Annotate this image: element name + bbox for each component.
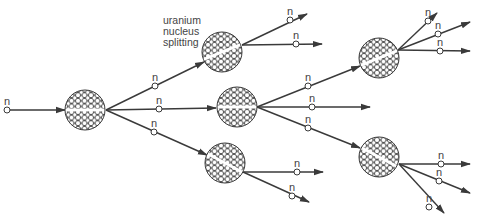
neutron-path: n	[243, 172, 309, 202]
uranium-nucleus-icon	[215, 87, 259, 127]
uranium-nucleus-icon	[201, 32, 243, 72]
neutron-arrow	[243, 172, 309, 202]
neutron-dot-icon	[294, 169, 300, 175]
neutron-label: n	[287, 5, 293, 17]
neutron-path: n	[106, 62, 204, 110]
caption-line-3: splitting	[163, 36, 199, 48]
neutron-dot-icon	[152, 83, 158, 89]
neutron-label: n	[305, 71, 311, 83]
neutron-path: n	[398, 36, 470, 54]
neutron-label: n	[425, 6, 431, 18]
neutron-dot-icon	[305, 125, 311, 131]
neutron-label: n	[293, 29, 299, 41]
neutron-dot-icon	[293, 41, 299, 47]
chain-reaction-diagram: nnnnnnnnnnnnnnnnn uranium nucleus splitt…	[0, 0, 478, 219]
neutron-label: n	[152, 71, 158, 83]
neutron-label: n	[305, 113, 311, 125]
neutron-dot-icon	[309, 104, 315, 110]
neutron-arrow	[398, 22, 470, 50]
neutron-label: n	[156, 94, 162, 106]
neutron-label: n	[426, 192, 432, 204]
neutron-dot-icon	[305, 83, 311, 89]
uranium-nucleus-icon	[63, 90, 107, 130]
neutron-arrow	[398, 13, 437, 50]
uranium-nucleus-icon	[359, 137, 399, 177]
neutron-path: n	[257, 107, 360, 148]
uranium-nucleus-icon	[205, 143, 245, 183]
neutron-dot-icon	[426, 204, 432, 210]
neutron-label: n	[437, 36, 443, 48]
neutron-dot-icon	[437, 48, 443, 54]
neutron-label: n	[294, 157, 300, 169]
neutron-label: n	[4, 95, 10, 107]
neutron-path: n	[106, 94, 216, 112]
neutron-label: n	[438, 149, 444, 161]
neutron-label: n	[151, 117, 157, 129]
neutron-dot-icon	[4, 107, 10, 113]
neutron-label: n	[435, 19, 441, 31]
neutron-label: n	[309, 92, 315, 104]
neutron-label: n	[289, 181, 295, 193]
neutron-arrow	[242, 44, 322, 45]
neutron-path: n	[4, 95, 65, 113]
neutron-path: n	[398, 6, 437, 50]
neutron-dot-icon	[436, 178, 442, 184]
neutron-dot-icon	[289, 193, 295, 199]
neutron-label: n	[436, 166, 442, 178]
neutron-arrow	[399, 164, 470, 193]
neutron-dot-icon	[287, 17, 293, 23]
neutron-path: n	[242, 29, 322, 47]
uranium-nucleus-icon	[358, 38, 400, 78]
neutron-path: n	[399, 164, 470, 193]
neutron-path: n	[243, 157, 323, 175]
neutron-dot-icon	[425, 18, 431, 24]
neutron-dot-icon	[156, 106, 162, 112]
neutron-path: n	[399, 149, 470, 167]
neutron-path: n	[398, 19, 470, 50]
neutron-path: n	[106, 110, 207, 155]
neutron-arrow	[398, 50, 470, 51]
neutron-dot-icon	[151, 129, 157, 135]
